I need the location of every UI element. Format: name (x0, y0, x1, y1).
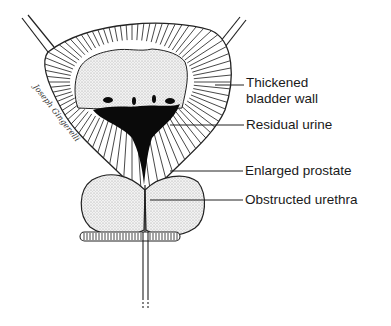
urethra (143, 232, 148, 308)
left-ureter (22, 15, 54, 52)
label-line1: Thickened (246, 75, 318, 91)
label-residual-urine: Residual urine (246, 117, 332, 133)
label-obstructed-urethra: Obstructed urethra (245, 192, 358, 208)
label-line2: bladder wall (246, 91, 318, 107)
label-enlarged-prostate: Enlarged prostate (245, 163, 352, 179)
label-thickened-bladder-wall: Thickened bladder wall (246, 75, 318, 107)
prostate-left-lobe (81, 175, 145, 236)
prostate-right-lobe (145, 176, 204, 236)
bladder-diagram: Joseph Gingerelli Thickened bladder wall… (0, 0, 391, 326)
